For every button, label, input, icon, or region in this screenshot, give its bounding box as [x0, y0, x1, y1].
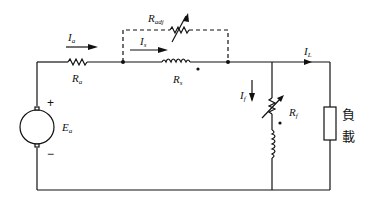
generator-armature [20, 110, 54, 144]
label-ea: Ea [61, 121, 73, 135]
label-if: If [239, 89, 247, 103]
label-ra: Ra [71, 72, 83, 86]
load-label-line1: 負 [342, 107, 355, 122]
label-ia: Ia [67, 31, 76, 45]
rf-polarity-dot [278, 121, 281, 124]
shunt-coil [272, 130, 275, 158]
circuit-diagram: Ia Ra Is Radj Rs IL If Rf Ea + − 負 載 [0, 0, 370, 206]
load-box [324, 107, 336, 140]
load-label-line2: 載 [342, 129, 355, 144]
il-arrow-head [304, 59, 312, 65]
radj-arrow-head [183, 13, 189, 22]
plus-sign: + [47, 96, 54, 110]
is-arrow-head [158, 47, 168, 53]
if-arrow-head [249, 93, 255, 102]
label-rs: Rs [172, 73, 183, 87]
label-is: Is [139, 35, 147, 49]
ra-resistor [68, 59, 87, 65]
label-il: IL [303, 45, 312, 59]
label-radj: Radj [147, 12, 164, 26]
label-rf: Rf [288, 106, 299, 120]
minus-sign: − [47, 147, 54, 161]
junction-dot-2 [226, 60, 230, 64]
diverter-dashed-right [189, 30, 228, 62]
rs-polarity-dot [196, 67, 199, 70]
ia-arrow-head [88, 44, 98, 50]
junction-dot-1 [121, 60, 125, 64]
brush-top [35, 107, 39, 110]
rs-coil [162, 59, 190, 62]
diverter-dashed-left [123, 30, 170, 62]
brush-bottom [35, 144, 39, 147]
